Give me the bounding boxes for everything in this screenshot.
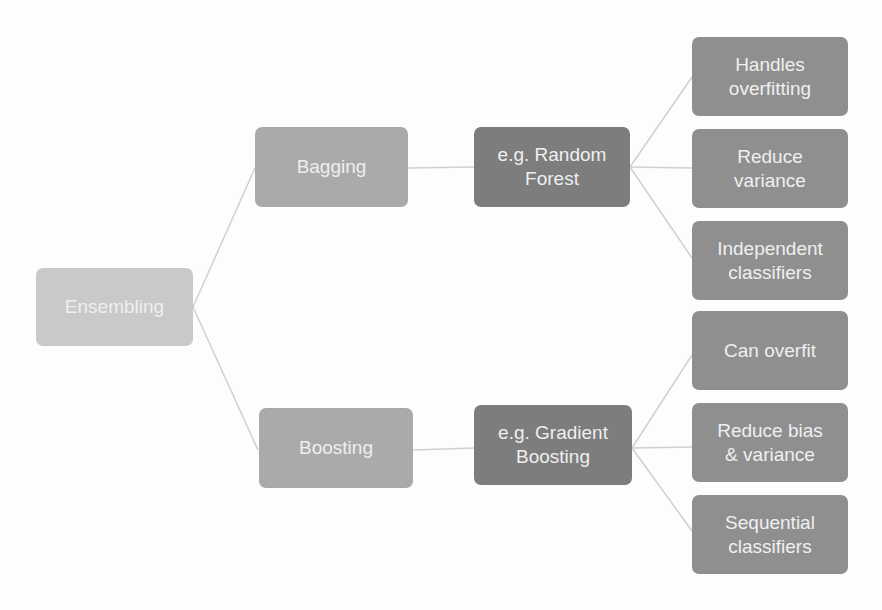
connector-rf-prop-3 (630, 167, 692, 258)
node-ensembling: Ensembling (36, 268, 193, 346)
node-label: Can overfit (724, 339, 816, 363)
node-label: Reduce bias & variance (717, 419, 823, 467)
connector-root-bagging (193, 168, 255, 307)
node-label: Independent classifiers (717, 237, 823, 285)
node-reduce-variance: Reduce variance (692, 129, 848, 208)
node-can-overfit: Can overfit (692, 311, 848, 390)
connector-gb-prop-1 (632, 355, 692, 448)
node-label: Boosting (299, 436, 373, 460)
node-gradient-boosting: e.g. Gradient Boosting (474, 405, 632, 485)
node-bagging: Bagging (255, 127, 408, 207)
node-label: Reduce variance (734, 145, 806, 193)
node-handles-overfitting: Handles overfitting (692, 37, 848, 116)
connector-rf-prop-1 (630, 77, 692, 167)
node-random-forest: e.g. Random Forest (474, 127, 630, 207)
node-label: Handles overfitting (729, 53, 811, 101)
connector-gb-prop-2 (632, 447, 692, 448)
node-label: Ensembling (65, 295, 164, 319)
node-independent-classifiers: Independent classifiers (692, 221, 848, 300)
connector-boosting-example (413, 448, 474, 450)
node-label: Sequential classifiers (725, 511, 815, 559)
connector-gb-prop-3 (632, 448, 692, 531)
node-label: Bagging (297, 155, 367, 179)
node-label: e.g. Random Forest (498, 143, 607, 191)
node-boosting: Boosting (259, 408, 413, 488)
node-sequential-classifiers: Sequential classifiers (692, 495, 848, 574)
node-label: e.g. Gradient Boosting (498, 421, 608, 469)
connector-root-boosting (193, 307, 258, 450)
connector-rf-prop-2 (630, 167, 692, 168)
ensembling-diagram: Ensembling Bagging Boosting e.g. Random … (0, 0, 882, 610)
node-reduce-bias-variance: Reduce bias & variance (692, 403, 848, 482)
connector-bagging-example (408, 167, 474, 168)
